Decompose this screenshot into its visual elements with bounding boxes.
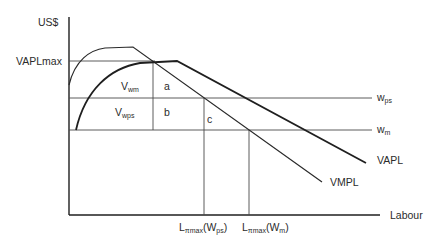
vmpl-curve [69, 47, 322, 182]
region-b-label: b [164, 106, 170, 118]
region-a-label: a [164, 80, 170, 92]
region-vwps-label: Vwps [115, 106, 135, 120]
vmpl-label: VMPL [330, 176, 359, 188]
wm-label: wm [376, 123, 391, 136]
vapl-label: VAPL [377, 154, 403, 166]
lpimax-wps-label: Lπmax(Wps) [179, 221, 227, 235]
wps-label: wps [376, 91, 392, 105]
x-axis-label: Labour [390, 209, 423, 221]
region-vwm-label: Vwm [121, 80, 139, 93]
y-axis-label: US$ [38, 16, 59, 28]
lpimax-wm-label: Lπmax(Wm) [242, 221, 289, 234]
region-c-label: c [207, 113, 212, 125]
labour-economics-diagram: US$ VAPLmax Vwm Vwps a b c wps wm VAPL V… [0, 0, 435, 247]
vaplmax-label: VAPLmax [16, 55, 63, 67]
